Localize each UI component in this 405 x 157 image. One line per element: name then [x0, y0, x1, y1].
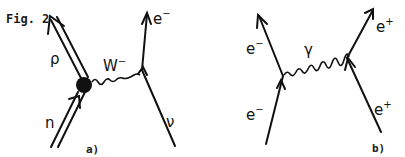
diagram-b-caption: b) — [372, 142, 385, 155]
electron-label: e− — [153, 8, 171, 28]
w-boson-label: W− — [103, 56, 126, 75]
interaction-blob — [76, 77, 92, 93]
w-boson-wavy-line — [92, 74, 140, 85]
positron-out-line — [347, 10, 373, 58]
positron-out-label: e+ — [376, 16, 394, 36]
positron-in-label: e+ — [374, 99, 392, 119]
photon-wavy-line — [284, 54, 349, 75]
neutron-line — [51, 92, 85, 147]
proton-label: ρ — [50, 50, 60, 68]
neutrino-line — [142, 70, 175, 146]
figure-title: Fig. 2 — [6, 12, 49, 26]
proton-line — [48, 16, 88, 80]
diagram-b: e− e− γ e+ e+ b) — [246, 9, 394, 155]
electron-out-label: e− — [246, 38, 264, 58]
electron-in-label: e− — [246, 104, 264, 124]
electron-in-line — [266, 76, 283, 144]
neutrino-label: ν — [166, 113, 174, 131]
photon-label: γ — [304, 41, 313, 59]
neutron-label: n — [45, 114, 55, 132]
diagram-a: ρ n W− e− ν a) — [45, 8, 175, 156]
feynman-diagrams-figure: Fig. 2 ρ n W− e− — [0, 0, 405, 157]
positron-in-line — [347, 58, 381, 132]
diagram-a-caption: a) — [86, 143, 99, 156]
